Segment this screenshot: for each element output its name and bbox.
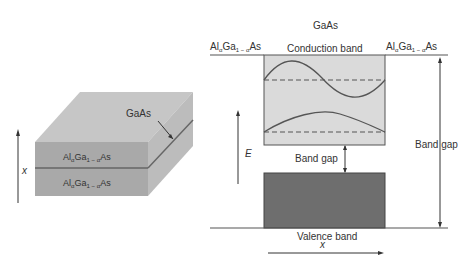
inner-band-gap-label: Band gap bbox=[295, 153, 338, 164]
energy-axis-label: E bbox=[245, 148, 252, 159]
gaas-title: GaAs bbox=[313, 20, 338, 31]
left-x-label: x bbox=[21, 165, 28, 176]
heterostructure-slab bbox=[35, 92, 193, 196]
left-material-label: AlαGa1 − αAs bbox=[210, 41, 261, 53]
valence-band-label: Valence band bbox=[297, 231, 357, 242]
conduction-band-label: Conduction band bbox=[287, 43, 363, 54]
outer-band-gap-label: Band gap bbox=[415, 139, 458, 150]
quantum-well-diagram: GaAs AlαGa1 − αAs AlαGa1 − αAs x GaAs Al… bbox=[0, 0, 468, 272]
position-axis-label: x bbox=[319, 239, 326, 250]
right-material-label: AlαGa1 − αAs bbox=[386, 41, 437, 53]
gaas-layer-label: GaAs bbox=[126, 108, 151, 119]
arrow-head-icon bbox=[16, 129, 20, 136]
valence-band-well bbox=[264, 173, 385, 228]
